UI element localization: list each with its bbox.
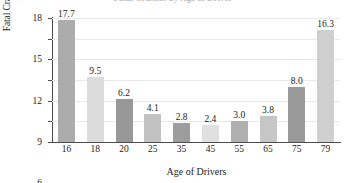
y-axis-tick: 9 [48, 80, 52, 81]
y-axis-tick: 15 [48, 39, 52, 40]
bar-value-label: 9.5 [89, 66, 101, 76]
bar: 2.8 [173, 123, 190, 142]
x-axis-tick-label: 35 [177, 144, 187, 154]
y-axis-tick-label: 6 [37, 178, 42, 183]
plot-area: 036912151817.7169.5186.2204.1252.8352.44… [52, 18, 340, 142]
bar-chart-figure: Fatal Crashes by Age of Driver Fatal Cra… [0, 0, 346, 183]
y-axis-tick-label: 15 [33, 54, 43, 64]
y-axis-title: Fatal Crashes per 100 Million Miles Driv… [1, 0, 27, 42]
bar-value-label: 4.1 [147, 103, 159, 113]
bar-value-label: 2.8 [176, 112, 188, 122]
x-axis-line [52, 142, 341, 143]
bar: 4.1 [144, 114, 161, 142]
x-axis-tick-label: 45 [206, 144, 216, 154]
bar-value-label: 2.4 [204, 114, 216, 124]
gridline [52, 39, 340, 40]
bar: 3.8 [260, 116, 277, 142]
x-axis-tick-label: 65 [263, 144, 273, 154]
bar: 17.7 [58, 20, 75, 142]
y-axis-tick: 12 [48, 59, 52, 60]
x-axis-tick-label: 75 [292, 144, 302, 154]
y-axis-tick: 18 [48, 18, 52, 19]
x-axis-tick-label: 20 [119, 144, 129, 154]
bar: 9.5 [87, 77, 104, 142]
y-axis-tick: 3 [48, 121, 52, 122]
y-axis-tick-label: 18 [33, 13, 43, 23]
bar: 16.3 [317, 30, 334, 142]
y-axis-tick-label: 12 [33, 96, 43, 106]
x-axis-tick-label: 79 [321, 144, 331, 154]
chart-title-cropped: Fatal Crashes by Age of Driver [0, 0, 346, 3]
bar: 3.0 [231, 121, 248, 142]
y-axis-tick: 6 [48, 101, 52, 102]
gridline [52, 59, 340, 60]
y-axis-title-line1: Fatal Crashes per 100 Million [2, 0, 12, 31]
bar-value-label: 8.0 [291, 76, 303, 86]
bar-value-label: 3.0 [233, 110, 245, 120]
bar: 6.2 [116, 99, 133, 142]
x-axis-title: Age of Drivers [52, 166, 341, 177]
bar-value-label: 16.3 [317, 19, 334, 29]
x-axis-tick-label: 25 [148, 144, 158, 154]
bar: 8.0 [288, 87, 305, 142]
x-axis-tick-label: 55 [234, 144, 244, 154]
y-axis-tick-label: 9 [37, 137, 42, 147]
bar-value-label: 6.2 [118, 88, 130, 98]
x-axis-tick-label: 16 [62, 144, 72, 154]
gridline [52, 18, 340, 19]
y-axis-title-line2: Miles Driven [14, 0, 27, 42]
bar-value-label: 17.7 [58, 9, 75, 19]
bar: 2.4 [202, 125, 219, 142]
bar-value-label: 3.8 [262, 105, 274, 115]
y-axis-tick: 0 [48, 142, 52, 143]
x-axis-tick-label: 18 [90, 144, 100, 154]
